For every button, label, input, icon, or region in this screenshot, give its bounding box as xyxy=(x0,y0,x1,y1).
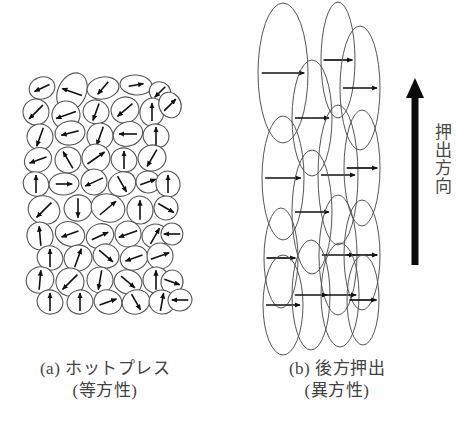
grain xyxy=(110,118,146,151)
grain xyxy=(150,192,182,224)
caption-panel-a-line2: (等方性) xyxy=(0,380,210,402)
figure-root: (a) ホットプレス (等方性) (b) 後方押出 (異方性) 押出方向 xyxy=(0,0,457,438)
extrusion-direction-label: 押出方向 xyxy=(427,123,451,195)
caption-panel-a-line1: (a) ホットプレス xyxy=(40,359,170,378)
panel-b-grain-cluster xyxy=(258,2,380,355)
grain xyxy=(60,191,95,225)
grain-elongated xyxy=(344,110,380,226)
grain xyxy=(80,97,111,127)
grain-elongated xyxy=(263,255,303,355)
caption-panel-b: (b) 後方押出 (異方性) xyxy=(247,358,427,403)
caption-panel-b-line2: (異方性) xyxy=(247,380,427,402)
panel-a-grain-cluster xyxy=(18,68,194,318)
grain xyxy=(48,172,80,197)
grain-elongated xyxy=(258,3,308,143)
caption-panel-b-line1: (b) 後方押出 xyxy=(289,359,385,378)
grain xyxy=(51,143,86,178)
grain xyxy=(135,142,169,174)
grain xyxy=(153,168,183,199)
grain xyxy=(119,74,153,97)
grain-elongated xyxy=(318,105,358,245)
grain xyxy=(85,74,120,101)
grain xyxy=(117,242,152,274)
grain xyxy=(78,166,110,198)
caption-panel-a: (a) ホットプレス (等方性) xyxy=(0,358,210,403)
grain xyxy=(108,94,142,126)
grain xyxy=(19,167,54,201)
grain xyxy=(108,144,141,175)
grain xyxy=(26,73,58,103)
grain-elongated xyxy=(264,208,298,308)
grain-elongated xyxy=(321,243,359,347)
grain-elongated xyxy=(347,255,379,345)
grain-elongated xyxy=(340,26,380,150)
grain-elongated xyxy=(262,116,304,240)
grain-elongated xyxy=(321,2,355,118)
